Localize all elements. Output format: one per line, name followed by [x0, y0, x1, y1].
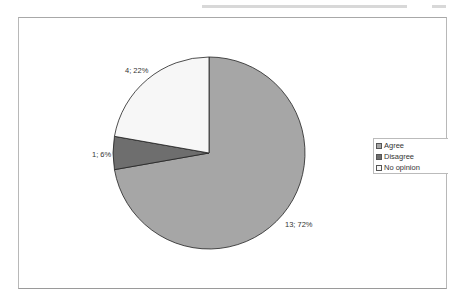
legend-swatch-disagree — [376, 154, 382, 160]
legend-swatch-no-opinion — [376, 165, 382, 171]
legend-item-no-opinion: No opinion — [376, 162, 448, 173]
legend-label-agree: Agree — [384, 141, 404, 150]
legend-label-no-opinion: No opinion — [384, 163, 420, 172]
legend-swatch-agree — [376, 143, 382, 149]
chart-legend: Agree Disagree No opinion — [373, 138, 448, 174]
legend-item-disagree: Disagree — [376, 151, 448, 162]
data-label-disagree: 1; 6% — [92, 150, 111, 159]
data-label-agree: 13; 72% — [285, 220, 313, 229]
legend-item-agree: Agree — [376, 140, 448, 151]
data-label-no-opinion: 4; 22% — [125, 66, 148, 75]
legend-label-disagree: Disagree — [384, 152, 414, 161]
